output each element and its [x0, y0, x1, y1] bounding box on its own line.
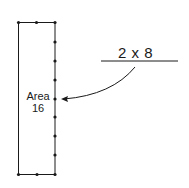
area-value: 16 [22, 102, 54, 114]
arrowhead-icon [61, 96, 68, 102]
area-label: Area 16 [22, 90, 54, 114]
curved-arrow [64, 67, 135, 99]
multiplication-expression: 2 x 8 [118, 44, 153, 61]
area-word: Area [22, 90, 54, 102]
